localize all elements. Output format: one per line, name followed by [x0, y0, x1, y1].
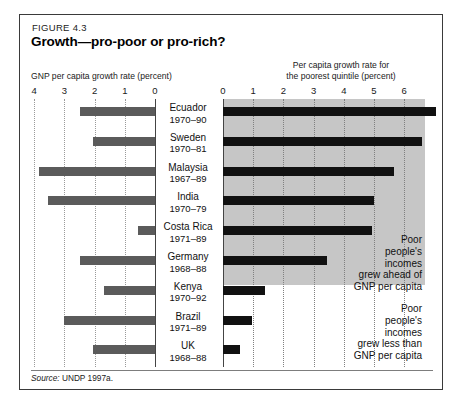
poorest-quintile-bar: [223, 107, 436, 116]
annotation-pro-rich-l4: grew less than: [358, 338, 422, 349]
country-years: 1971–89: [154, 322, 222, 334]
figure-panel: FIGURE 4.3 Growth—pro-poor or pro-rich? …: [19, 14, 443, 390]
gnp-growth-bar: [104, 286, 155, 295]
annotation-pro-rich: Poor people's incomes grew less than GNP…: [336, 303, 422, 362]
country-years: 1970–92: [154, 292, 222, 304]
left-tick-label-4: 4: [27, 85, 41, 96]
country-years: 1970–81: [154, 143, 222, 155]
country-years: 1970–90: [154, 114, 222, 126]
country-name: Ecuador: [154, 102, 222, 114]
right-tick-label-3: 3: [307, 85, 321, 96]
poorest-quintile-bar: [223, 137, 422, 146]
country-label: Germany1968–88: [154, 251, 222, 274]
country-label: Malaysia1967–89: [154, 162, 222, 185]
country-years: 1967–89: [154, 173, 222, 185]
chart-row: Malaysia1967–89: [20, 161, 444, 192]
country-label: UK1968–88: [154, 340, 222, 363]
left-tick-label-2: 2: [88, 85, 102, 96]
country-name: Sweden: [154, 132, 222, 144]
annotation-pro-poor-l5: GNP per capita: [354, 281, 422, 292]
gnp-growth-bar: [39, 167, 155, 176]
right-tick-label-4: 4: [337, 85, 351, 96]
poorest-quintile-bar: [223, 167, 394, 176]
country-years: 1968–88: [154, 352, 222, 364]
poorest-quintile-bar: [223, 196, 374, 205]
source-label: Source:: [31, 373, 60, 383]
country-name: Malaysia: [154, 162, 222, 174]
country-name: Germany: [154, 251, 222, 263]
country-label: Brazil1971–89: [154, 311, 222, 334]
right-tick-label-5: 5: [367, 85, 381, 96]
chart-row: Ecuador1970–90: [20, 101, 444, 132]
annotation-pro-poor-l2: people's: [385, 246, 422, 257]
left-tick-label-0: 0: [148, 85, 162, 96]
right-tick-label-0: 0: [216, 85, 230, 96]
gnp-growth-bar: [64, 316, 155, 325]
left-tick-label-3: 3: [57, 85, 71, 96]
source-note: Source: UNDP 1997a.: [31, 373, 113, 383]
annotation-pro-rich-l2: people's: [385, 315, 422, 326]
gnp-growth-bar: [93, 137, 155, 146]
country-name: India: [154, 191, 222, 203]
country-years: 1968–88: [154, 263, 222, 275]
right-tick-label-2: 2: [276, 85, 290, 96]
country-name: Costa Rica: [154, 221, 222, 233]
chart-row: India1970–79: [20, 190, 444, 221]
country-label: India1970–79: [154, 191, 222, 214]
poorest-quintile-bar: [223, 316, 252, 325]
right-tick-label-1: 1: [246, 85, 260, 96]
chart-row: Sweden1970–81: [20, 131, 444, 162]
gnp-growth-bar: [138, 226, 155, 235]
gnp-growth-bar: [80, 107, 156, 116]
annotation-pro-poor: Poor people's incomes grew ahead of GNP …: [338, 234, 422, 293]
annotation-pro-poor-l1: Poor: [401, 234, 422, 245]
annotation-pro-rich-l1: Poor: [401, 303, 422, 314]
left-tick-label-1: 1: [118, 85, 132, 96]
country-years: 1970–79: [154, 203, 222, 215]
country-label: Kenya1970–92: [154, 281, 222, 304]
annotation-pro-rich-l5: GNP per capita: [354, 350, 422, 361]
gnp-growth-bar: [93, 345, 155, 354]
country-name: UK: [154, 340, 222, 352]
country-label: Costa Rica1971–89: [154, 221, 222, 244]
gnp-growth-bar: [48, 196, 155, 205]
poorest-quintile-bar: [223, 256, 327, 265]
annotation-pro-rich-l3: incomes: [385, 327, 422, 338]
right-tick-label-6: 6: [397, 85, 411, 96]
poorest-quintile-bar: [223, 345, 240, 354]
country-name: Kenya: [154, 281, 222, 293]
gnp-growth-bar: [80, 256, 156, 265]
annotation-pro-poor-l3: incomes: [385, 258, 422, 269]
source-value: UNDP 1997a.: [60, 373, 113, 383]
poorest-quintile-bar: [223, 286, 265, 295]
chart-plot-area: 43210 0123456 Ecuador1970–90Sweden1970–8…: [20, 15, 444, 391]
source-divider: [31, 370, 433, 371]
country-name: Brazil: [154, 311, 222, 323]
annotation-pro-poor-l4: grew ahead of: [359, 269, 422, 280]
country-years: 1971–89: [154, 233, 222, 245]
country-label: Sweden1970–81: [154, 132, 222, 155]
country-label: Ecuador1970–90: [154, 102, 222, 125]
